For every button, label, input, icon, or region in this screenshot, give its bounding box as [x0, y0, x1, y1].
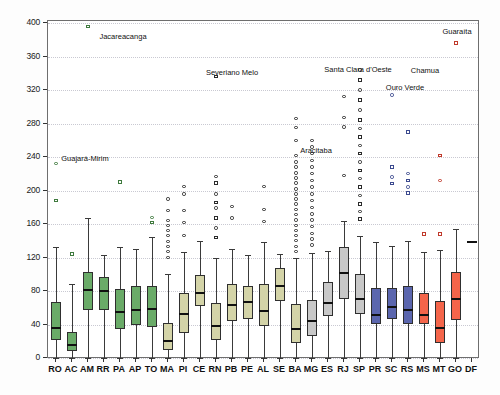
x-tick-label-se: SE: [273, 364, 285, 374]
x-tick-mark: [423, 358, 424, 362]
annotation-label: Guajará-Mirim: [61, 154, 109, 163]
x-tick-mark: [359, 358, 360, 362]
x-tick-mark: [455, 358, 456, 362]
annotation-label: Chamua: [411, 66, 439, 75]
x-tick-mark: [87, 358, 88, 362]
annotation-label: Santa Clara d'Oeste: [324, 65, 391, 74]
x-tick-label-ma: MA: [160, 364, 174, 374]
y-tick-label: 120: [0, 252, 40, 262]
x-tick-mark: [55, 358, 56, 362]
annotation-label: Guaraíta: [442, 27, 471, 36]
x-tick-mark: [183, 358, 184, 362]
x-tick-mark: [231, 358, 232, 362]
x-tick-mark: [295, 358, 296, 362]
x-tick-label-rr: RR: [97, 364, 110, 374]
x-tick-mark: [167, 358, 168, 362]
x-tick-mark: [391, 358, 392, 362]
x-tick-mark: [279, 358, 280, 362]
x-tick-mark: [103, 358, 104, 362]
single-value-line: [467, 241, 477, 243]
x-tick-label-ba: BA: [289, 364, 302, 374]
x-tick-label-rs: RS: [401, 364, 414, 374]
x-tick-label-ac: AC: [65, 364, 78, 374]
x-tick-mark: [343, 358, 344, 362]
x-tick-label-mg: MG: [304, 364, 319, 374]
x-tick-mark: [215, 358, 216, 362]
y-tick-label: 280: [0, 118, 40, 128]
annotation-label: Severiano Melo: [206, 68, 258, 77]
x-tick-mark: [135, 358, 136, 362]
x-tick-label-pa: PA: [113, 364, 125, 374]
y-tick-label: 200: [0, 185, 40, 195]
x-tick-label-ro: RO: [48, 364, 62, 374]
x-tick-label-es: ES: [321, 364, 333, 374]
x-tick-label-rn: RN: [209, 364, 222, 374]
x-tick-mark: [407, 358, 408, 362]
x-tick-label-pr: PR: [369, 364, 382, 374]
y-tick-label: 160: [0, 218, 40, 228]
x-tick-label-am: AM: [80, 364, 94, 374]
x-tick-label-mt: MT: [433, 364, 446, 374]
boxplot-figure: Taxa de mortalidade geral só Covid confi…: [0, 0, 500, 395]
x-tick-mark: [71, 358, 72, 362]
x-tick-label-ce: CE: [193, 364, 206, 374]
annotation-label: Jacareacanga: [99, 32, 146, 41]
annotation-label: Aracitaba: [300, 146, 332, 155]
y-tick-label: 80: [0, 285, 40, 295]
x-tick-label-pe: PE: [241, 364, 253, 374]
x-tick-label-to: TO: [145, 364, 157, 374]
y-tick-label: 240: [0, 151, 40, 161]
x-tick-mark: [199, 358, 200, 362]
y-tick-label: 320: [0, 84, 40, 94]
x-tick-label-al: AL: [257, 364, 269, 374]
x-tick-label-ms: MS: [416, 364, 430, 374]
x-tick-label-go: GO: [448, 364, 462, 374]
x-tick-label-sc: SC: [385, 364, 398, 374]
x-tick-label-pi: PI: [179, 364, 188, 374]
x-tick-mark: [439, 358, 440, 362]
y-tick-label: 400: [0, 17, 40, 27]
x-tick-label-ap: AP: [129, 364, 142, 374]
x-tick-mark: [471, 358, 472, 362]
x-tick-mark: [151, 358, 152, 362]
x-tick-mark: [247, 358, 248, 362]
x-tick-mark: [119, 358, 120, 362]
y-tick-label: 360: [0, 51, 40, 61]
annotation-label: Ouro Verde: [386, 83, 424, 92]
y-tick-label: 40: [0, 319, 40, 329]
x-tick-label-sp: SP: [353, 364, 365, 374]
x-tick-label-df: DF: [465, 364, 477, 374]
x-tick-mark: [327, 358, 328, 362]
x-tick-mark: [263, 358, 264, 362]
x-tick-label-rj: RJ: [337, 364, 349, 374]
y-tick-label: 0: [0, 352, 40, 362]
x-tick-mark: [311, 358, 312, 362]
x-tick-mark: [375, 358, 376, 362]
x-tick-label-pb: PB: [225, 364, 238, 374]
